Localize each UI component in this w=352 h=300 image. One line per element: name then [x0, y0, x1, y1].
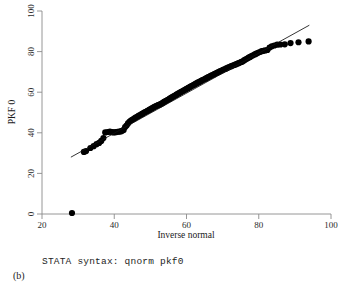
data-point	[69, 210, 75, 216]
stata-syntax-caption: STATA syntax: qnorm pkf0	[42, 256, 184, 267]
y-axis-title: PKF 0	[7, 99, 17, 124]
y-tick-label: 100	[26, 4, 36, 18]
axes	[42, 11, 331, 214]
x-tick-label: 100	[324, 220, 338, 230]
qq-plot-figure: 020406080100 20406080100 Inverse normal …	[0, 0, 352, 300]
panel-label: (b)	[13, 270, 25, 281]
data-point	[306, 38, 312, 44]
reference-line	[71, 25, 309, 157]
plot-area: 020406080100 20406080100 Inverse normal …	[0, 0, 352, 248]
y-tick-label: 40	[26, 128, 36, 138]
scatter-points	[69, 38, 312, 216]
data-point	[282, 41, 288, 47]
x-axis-ticks: 20406080100	[38, 214, 339, 230]
x-tick-label: 80	[254, 220, 264, 230]
y-tick-label: 80	[26, 47, 36, 57]
data-point	[287, 40, 293, 46]
chart-svg: 020406080100 20406080100 Inverse normal …	[0, 0, 352, 248]
y-tick-label: 0	[26, 211, 36, 216]
y-tick-label: 20	[26, 168, 36, 178]
x-tick-label: 40	[110, 220, 120, 230]
data-point	[295, 39, 301, 45]
caption-area: STATA syntax: qnorm pkf0 (b)	[0, 248, 352, 300]
y-axis-ticks: 020406080100	[26, 4, 42, 217]
x-axis-title: Inverse normal	[157, 230, 215, 240]
x-tick-label: 20	[38, 220, 48, 230]
x-tick-label: 60	[182, 220, 192, 230]
y-tick-label: 60	[26, 87, 36, 97]
